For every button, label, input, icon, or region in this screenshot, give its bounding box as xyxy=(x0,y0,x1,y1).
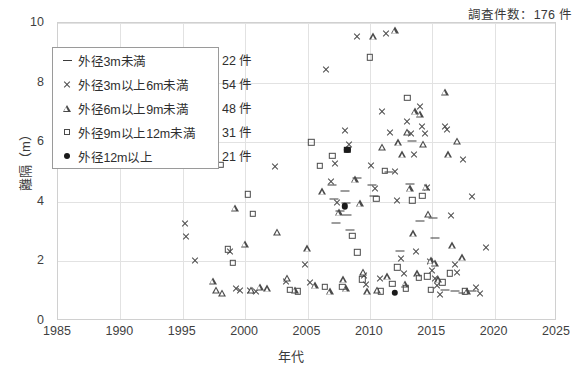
data-point xyxy=(406,185,414,192)
data-point xyxy=(409,197,415,203)
data-point xyxy=(317,163,323,169)
data-point xyxy=(322,284,328,290)
chart-canvas: 調査件数：176 件 0246810 198519901995200020052… xyxy=(0,0,582,378)
legend-item-count: 54 件 xyxy=(222,71,252,95)
x-tick-label: 1985 xyxy=(27,324,87,338)
data-point xyxy=(354,249,360,255)
data-point xyxy=(378,143,386,150)
x-axis-tick-labels: 198519901995200020052010201520202025 xyxy=(0,324,582,346)
data-point xyxy=(448,242,456,249)
y-tick-label: 8 xyxy=(0,75,44,89)
data-point xyxy=(422,183,430,190)
data-point xyxy=(378,107,386,115)
data-point xyxy=(209,277,217,284)
data-point xyxy=(284,274,292,281)
data-point xyxy=(363,288,371,295)
legend-item-label: 外径6m以上9m未満 xyxy=(78,99,189,118)
data-point xyxy=(398,151,406,158)
data-point xyxy=(360,268,368,275)
data-point xyxy=(450,291,459,292)
data-point xyxy=(429,218,438,219)
data-point xyxy=(468,192,476,200)
legend-item: 外径12m以上 xyxy=(59,144,153,168)
data-point xyxy=(382,29,390,37)
data-point xyxy=(458,253,466,260)
x-axis-title: 年代 xyxy=(0,346,582,365)
y-tick-label: 10 xyxy=(0,15,44,29)
legend-counts: 22 件54 件48 件31 件21 件 xyxy=(222,47,274,169)
data-point xyxy=(410,230,418,237)
data-point xyxy=(430,237,439,238)
data-point xyxy=(367,161,375,169)
legend-item: 外径6m以上9m未満 xyxy=(59,96,189,120)
x-tick-label: 1990 xyxy=(89,324,149,338)
legend-item-label: 外径3m以上6m未満 xyxy=(78,75,189,94)
gridline-vertical xyxy=(495,23,496,319)
x-tick-label: 2015 xyxy=(401,324,461,338)
data-point xyxy=(447,270,453,276)
data-point xyxy=(322,65,330,73)
data-point xyxy=(274,228,282,235)
legend-item: 外径3m未満 xyxy=(59,48,146,72)
data-point xyxy=(301,260,309,268)
dash-marker-icon xyxy=(59,52,75,68)
data-point xyxy=(453,137,461,144)
data-point xyxy=(482,243,490,251)
data-point xyxy=(332,223,341,224)
data-point xyxy=(340,191,349,192)
data-point xyxy=(461,288,467,294)
legend-item-label: 外径12m以上 xyxy=(78,147,153,166)
data-point xyxy=(395,250,404,251)
data-point xyxy=(351,176,359,183)
data-point xyxy=(373,196,379,202)
data-point xyxy=(191,256,199,264)
data-point xyxy=(420,140,428,147)
data-point xyxy=(395,139,403,146)
data-point xyxy=(367,54,373,60)
gridline-vertical xyxy=(308,23,309,319)
data-point xyxy=(421,129,429,137)
data-point xyxy=(329,152,335,158)
data-point xyxy=(247,286,255,293)
data-point xyxy=(428,287,434,293)
data-point xyxy=(397,254,405,262)
triangle-marker-icon xyxy=(59,100,75,116)
data-point xyxy=(349,233,355,239)
data-point xyxy=(356,200,364,207)
data-point xyxy=(441,88,449,95)
data-point xyxy=(419,193,425,199)
survey-count-annotation: 調査件数：176 件 xyxy=(468,4,572,23)
data-point xyxy=(386,128,394,136)
cross-marker-icon xyxy=(59,76,75,92)
data-point xyxy=(411,107,419,114)
data-point xyxy=(371,184,379,192)
data-point xyxy=(244,191,250,197)
data-point xyxy=(182,232,190,240)
data-point xyxy=(404,94,410,100)
x-tick-label: 2010 xyxy=(339,324,399,338)
data-point xyxy=(236,286,244,294)
dot-marker-icon xyxy=(59,148,75,164)
data-point xyxy=(219,289,227,296)
data-point xyxy=(308,139,314,145)
data-point xyxy=(241,240,249,247)
data-point xyxy=(393,196,401,204)
data-point xyxy=(403,285,409,291)
data-point xyxy=(328,185,337,186)
x-tick-label: 2005 xyxy=(277,324,337,338)
square-marker-icon xyxy=(59,124,75,140)
data-point xyxy=(335,209,343,216)
data-point xyxy=(287,287,293,293)
data-point xyxy=(443,125,451,133)
legend-item-count: 48 件 xyxy=(222,95,252,119)
data-point xyxy=(391,167,399,175)
data-point xyxy=(412,247,420,255)
data-point xyxy=(447,211,455,219)
data-point xyxy=(327,177,335,185)
legend: 外径3m未満外径3m以上6m未満外径6m以上9m未満外径9m以上12m未満外径1… xyxy=(52,47,219,169)
legend-item-count: 31 件 xyxy=(222,119,252,143)
data-point xyxy=(459,155,467,163)
y-axis-title: 離隔（m） xyxy=(15,120,34,200)
data-point xyxy=(383,273,391,280)
y-tick-label: 2 xyxy=(0,253,44,267)
